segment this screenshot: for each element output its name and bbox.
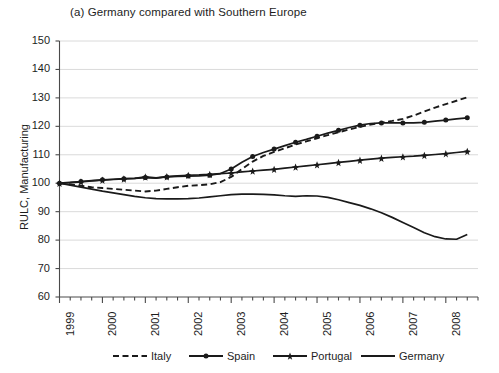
y-tick-label: 120	[20, 120, 50, 131]
chart-figure: (a) Germany compared with Southern Europ…	[0, 0, 499, 373]
data-point-marker	[335, 159, 342, 166]
data-point-marker	[292, 163, 299, 170]
y-tick-label: 80	[20, 234, 50, 245]
legend-label-italy: Italy	[151, 350, 171, 362]
data-point-marker	[465, 115, 470, 120]
legend-label-portugal: Portugal	[311, 350, 352, 362]
legend-item-portugal[interactable]: Portugal	[272, 348, 352, 364]
data-point-marker	[464, 148, 471, 155]
y-tick-label: 100	[20, 177, 50, 188]
data-point-marker	[249, 167, 256, 174]
x-tick-label: 2004	[279, 312, 290, 336]
data-point-marker	[356, 157, 363, 164]
data-point-marker	[336, 128, 341, 133]
legend-swatch-portugal	[272, 349, 308, 363]
x-tick-label: 2007	[408, 312, 419, 336]
series-line-germany	[60, 183, 468, 239]
y-tick-label: 60	[20, 291, 50, 302]
x-tick-label: 1999	[65, 312, 76, 336]
data-point-marker	[443, 118, 448, 123]
axis-ticks	[56, 41, 479, 303]
x-tick-label: 2006	[365, 312, 376, 336]
y-tick-label: 90	[20, 206, 50, 217]
legend-swatch-italy	[112, 349, 148, 363]
series-line-italy	[60, 97, 468, 191]
legend-item-spain[interactable]: Spain	[188, 348, 255, 364]
legend-item-germany[interactable]: Germany	[360, 348, 444, 364]
data-series-layer	[56, 97, 471, 239]
data-point-marker	[442, 150, 449, 157]
series-line-spain	[60, 118, 468, 183]
x-tick-label: 2005	[322, 312, 333, 336]
data-point-marker	[120, 175, 127, 182]
data-point-marker	[99, 176, 106, 183]
y-tick-label: 140	[20, 63, 50, 74]
chart-legend: ItalySpainPortugalGermany	[112, 348, 412, 364]
data-point-marker	[400, 120, 405, 125]
legend-label-spain: Spain	[227, 350, 255, 362]
legend-label-germany: Germany	[399, 350, 444, 362]
x-tick-label: 2002	[193, 312, 204, 336]
data-point-marker	[286, 352, 293, 359]
legend-swatch-spain	[188, 349, 224, 363]
y-tick-label: 70	[20, 263, 50, 274]
data-point-marker	[272, 147, 277, 152]
data-point-marker	[77, 178, 84, 185]
data-point-marker	[271, 166, 278, 173]
x-tick-label: 2003	[236, 312, 247, 336]
x-tick-label: 2008	[451, 312, 462, 336]
y-tick-label: 150	[20, 35, 50, 46]
data-point-marker	[357, 123, 362, 128]
data-point-marker	[313, 161, 320, 168]
y-tick-label: 110	[20, 149, 50, 160]
x-tick-label: 2001	[150, 312, 161, 336]
data-point-marker	[378, 155, 385, 162]
data-point-marker	[399, 153, 406, 160]
data-point-marker	[250, 154, 255, 159]
data-point-marker	[421, 152, 428, 159]
data-point-marker	[422, 120, 427, 125]
y-tick-label: 130	[20, 92, 50, 103]
legend-swatch-germany	[360, 349, 396, 363]
data-point-marker	[293, 140, 298, 145]
gridlines	[60, 41, 479, 269]
x-tick-label: 2000	[107, 312, 118, 336]
data-point-marker	[204, 354, 209, 359]
legend-item-italy[interactable]: Italy	[112, 348, 171, 364]
data-point-marker	[379, 120, 384, 125]
data-point-marker	[315, 134, 320, 139]
